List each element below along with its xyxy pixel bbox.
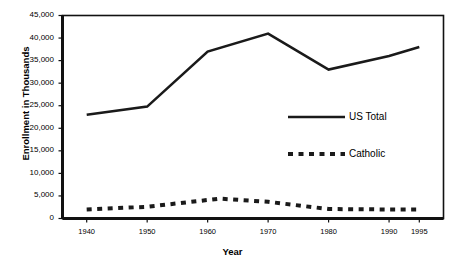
- legend-item-us-total: US Total: [349, 112, 387, 122]
- legend-swatches: [288, 117, 345, 154]
- x-axis-title: Year: [0, 246, 465, 257]
- chart-container: Enrollment in Thousands 05,00010,00015,0…: [0, 0, 465, 266]
- legend-item-catholic: Catholic: [349, 149, 385, 159]
- series-line-us-total: [87, 34, 420, 115]
- series-line-catholic: [87, 199, 420, 210]
- plot-area: [0, 0, 465, 266]
